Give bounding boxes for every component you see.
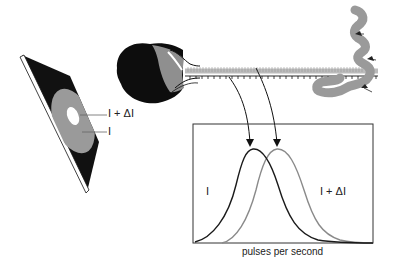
curve-label-I-plus-dI: I + ΔI	[320, 185, 346, 197]
curve-label-I: I	[206, 185, 209, 197]
curve-I	[195, 149, 373, 243]
cortex	[317, 10, 376, 93]
stimulus-plate	[20, 55, 107, 193]
graph-frame	[193, 124, 373, 243]
diagram-canvas	[0, 0, 398, 265]
label-surround-intensity: I	[108, 125, 111, 137]
recording-arrows	[229, 68, 281, 147]
arrowhead-left-icon	[246, 139, 254, 147]
arrowhead-right-icon	[273, 139, 281, 147]
curve-I-plus-dI	[222, 149, 373, 243]
label-center-intensity: I + ΔI	[108, 107, 134, 119]
nerve-fiber	[185, 67, 378, 79]
x-axis-label: pulses per second	[242, 246, 323, 257]
